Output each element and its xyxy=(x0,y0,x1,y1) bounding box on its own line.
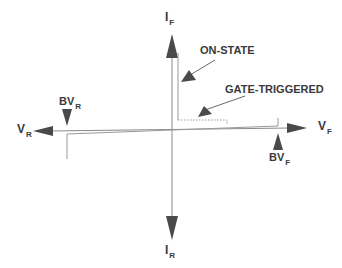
if-arrow-icon xyxy=(166,34,178,58)
on-state-pointer xyxy=(190,60,215,75)
vf-arrow-icon xyxy=(287,123,307,133)
gate-triggered-curve xyxy=(178,120,227,125)
gate-triggered-pointer xyxy=(205,96,245,110)
ir-label: IR xyxy=(165,244,175,256)
gate-triggered-label: GATE-TRIGGERED xyxy=(225,84,324,95)
bvr-marker-icon xyxy=(62,109,72,126)
bvf-marker-icon xyxy=(273,133,283,150)
iv-diagram xyxy=(0,0,342,268)
gate-triggered-pointer-arrow-icon xyxy=(198,106,212,117)
vf-label: VF xyxy=(318,120,332,132)
if-label: IF xyxy=(165,11,174,23)
vr-arrow-icon xyxy=(33,126,53,136)
on-state-label: ON-STATE xyxy=(200,45,255,56)
bvf-label: BVF xyxy=(269,152,290,163)
reverse-blocking-curve xyxy=(67,130,172,159)
vr-label: VR xyxy=(17,123,32,135)
bvr-label: BVR xyxy=(59,96,81,107)
ir-arrow-icon xyxy=(166,216,178,240)
on-state-pointer-arrow-icon xyxy=(181,70,196,82)
